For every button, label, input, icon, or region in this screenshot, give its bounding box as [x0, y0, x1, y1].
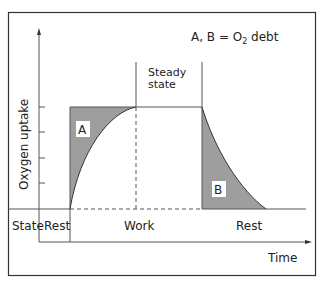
- phase-work: Work: [124, 219, 154, 233]
- phase-rest-1: Rest: [44, 219, 70, 233]
- steady-state-line2: state: [148, 78, 176, 91]
- y-axis-label: Oxygen uptake: [17, 99, 31, 190]
- frame: [9, 13, 316, 276]
- phase-rest-2: Rest: [236, 219, 262, 233]
- legend: A, B = O2 debt: [191, 30, 279, 46]
- x-axis-label: Time: [267, 251, 297, 265]
- state-label: State: [12, 219, 44, 233]
- region-a-label: A: [78, 123, 87, 137]
- oxygen-debt-diagram: A B Steady state A, B = O2 debt Oxygen u…: [0, 0, 322, 286]
- region-b-label: B: [214, 183, 222, 197]
